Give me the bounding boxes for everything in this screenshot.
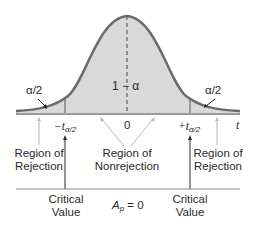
ap-value: = 0	[124, 199, 144, 211]
right-region-line1: Region of	[193, 147, 243, 160]
right-critical-value-label: Critical Value	[170, 193, 210, 219]
ap-equals-zero-label: Ap = 0	[112, 199, 144, 215]
right-tail-area-label: α/2	[205, 84, 221, 97]
right-critical-line2: Value	[170, 206, 210, 219]
nonrejection-region-label: Region of Nonrejection	[94, 147, 160, 173]
left-critical-tick-label: −tα/2	[54, 120, 76, 136]
t-axis-variable-label: t	[236, 119, 239, 132]
ap-symbol: A	[112, 199, 120, 211]
left-critical-line2: Value	[46, 206, 86, 219]
right-critical-line1: Critical	[170, 193, 210, 206]
t-distribution-diagram	[0, 0, 254, 231]
right-rejection-arrowhead-icon	[215, 117, 219, 121]
curve-fill-area	[16, 16, 240, 113]
left-region-line1: Region of	[14, 147, 64, 160]
right-tail-pointer	[206, 99, 215, 106]
center-region-line2: Nonrejection	[94, 160, 160, 173]
nonrejection-arrow-right	[131, 119, 153, 146]
left-critical-line1: Critical	[46, 193, 86, 206]
left-tick-prefix: −t	[54, 120, 65, 132]
left-tick-subscript: α/2	[65, 125, 76, 134]
left-tail-area-label: α/2	[26, 84, 42, 97]
zero-tick-label: 0	[124, 119, 130, 132]
right-critical-tick-label: +tα/2	[178, 120, 200, 136]
left-rejection-arrowhead-icon	[37, 117, 41, 121]
nonrejection-arrow-left	[102, 119, 124, 146]
right-tick-prefix: +t	[178, 120, 189, 132]
right-region-line2: Rejection	[193, 160, 243, 173]
left-rejection-region-label: Region of Rejection	[14, 147, 64, 173]
center-region-line1: Region of	[94, 147, 160, 160]
center-area-label: 1 − α	[112, 80, 139, 93]
left-critical-value-label: Critical Value	[46, 193, 86, 219]
left-region-line2: Rejection	[14, 160, 64, 173]
right-rejection-region-label: Region of Rejection	[193, 147, 243, 173]
right-tick-subscript: α/2	[189, 125, 200, 134]
